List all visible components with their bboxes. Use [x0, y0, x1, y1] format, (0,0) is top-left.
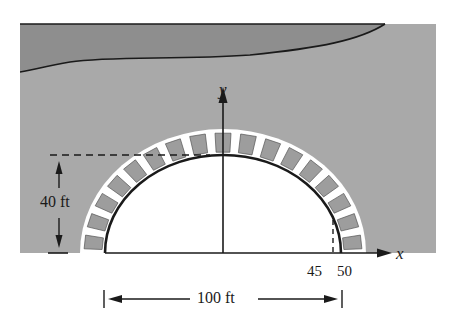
voussoir-stone — [84, 235, 103, 249]
x-axis-label: x — [396, 244, 404, 264]
y-axis-label: y — [219, 80, 227, 100]
width-label: 100 ft — [197, 289, 235, 307]
height-label: 40 ft — [40, 193, 70, 211]
tick-label-45: 45 — [307, 263, 322, 280]
arrow-right-icon — [324, 295, 338, 303]
voussoir-stone — [343, 235, 362, 249]
arch-diagram: y x 40 ft 100 ft 45 50 — [0, 0, 453, 328]
arrow-left-icon — [108, 295, 122, 303]
arch-drawing — [0, 0, 453, 328]
tick-label-50: 50 — [337, 263, 352, 280]
